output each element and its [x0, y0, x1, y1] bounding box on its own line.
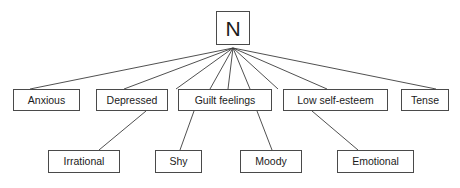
edge-depressed-irrational	[99, 111, 146, 150]
node-irrational-label: Irrational	[64, 156, 105, 167]
node-root-n-label: N	[225, 18, 240, 39]
node-anxious-label: Anxious	[28, 95, 65, 106]
node-depressed[interactable]: Depressed	[96, 89, 168, 111]
node-tense-label: Tense	[411, 95, 439, 106]
node-guilt-feelings-label: Guilt feelings	[195, 95, 256, 106]
edge-n-depressed	[124, 48, 233, 89]
edge-n-guilt-mid-left	[210, 48, 233, 89]
node-guilt-feelings[interactable]: Guilt feelings	[178, 89, 272, 111]
personality-trait-hierarchy-diagram: N Anxious Depressed Guilt feelings Low s…	[0, 0, 460, 188]
node-low-self-esteem[interactable]: Low self-esteem	[283, 89, 388, 111]
edge-n-tense	[233, 48, 436, 89]
edge-low-self-emotional	[312, 111, 358, 150]
node-shy[interactable]: Shy	[155, 150, 202, 173]
node-moody[interactable]: Moody	[240, 150, 302, 173]
node-tense[interactable]: Tense	[401, 89, 449, 111]
node-root-n[interactable]: N	[216, 11, 250, 45]
edge-n-guilt-mid	[228, 48, 233, 89]
node-depressed-label: Depressed	[107, 95, 158, 106]
node-emotional-label: Emotional	[352, 156, 399, 167]
node-moody-label: Moody	[255, 156, 287, 167]
edge-guilt-shy	[180, 111, 194, 150]
edge-n-anxious	[30, 48, 233, 89]
node-low-self-esteem-label: Low self-esteem	[297, 95, 373, 106]
edge-guilt-moody	[257, 111, 272, 150]
node-shy-label: Shy	[169, 156, 187, 167]
node-anxious[interactable]: Anxious	[13, 89, 80, 111]
node-emotional[interactable]: Emotional	[337, 150, 414, 173]
node-irrational[interactable]: Irrational	[48, 150, 120, 173]
edge-n-low-self-left	[233, 48, 278, 89]
